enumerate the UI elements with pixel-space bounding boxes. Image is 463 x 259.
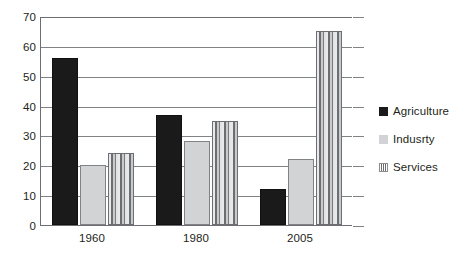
x-axis: 196019802005 — [40, 232, 352, 252]
y-tick-mark — [353, 77, 364, 78]
legend-label: Indusrty — [393, 133, 435, 145]
y-tick-mark — [353, 107, 364, 108]
y-tick-label: 10 — [2, 191, 36, 202]
y-tick-label: 40 — [2, 101, 36, 112]
bar-services-1960 — [108, 153, 134, 225]
legend-swatch-services-icon — [379, 163, 388, 172]
bar-group-2005 — [260, 17, 342, 225]
legend-item-services[interactable]: Services — [379, 157, 463, 177]
y-tick-mark — [353, 17, 364, 18]
y-tick-mark — [353, 166, 364, 167]
y-axis: 010203040506070 — [0, 0, 36, 259]
legend-label: Agriculture — [393, 105, 449, 117]
bar-chart: 010203040506070 196019802005 Agriculture… — [0, 0, 463, 259]
y-tick-label: 50 — [2, 71, 36, 82]
bar-agriculture-2005 — [260, 189, 286, 225]
y-tick-mark — [353, 47, 364, 48]
legend-item-agriculture[interactable]: Agriculture — [379, 101, 463, 121]
bar-agriculture-1980 — [156, 115, 182, 225]
y-tick-label: 60 — [2, 41, 36, 52]
y-tick-label: 0 — [2, 221, 36, 232]
x-tick-label: 1960 — [79, 232, 105, 244]
bar-group-1980 — [156, 17, 238, 225]
legend-item-industry[interactable]: Indusrty — [379, 129, 463, 149]
bar-agriculture-1960 — [52, 58, 78, 225]
x-tick-label: 1980 — [183, 232, 209, 244]
chart-legend: AgricultureIndusrtyServices — [379, 101, 463, 185]
bar-industry-1980 — [184, 141, 210, 225]
x-tick-label: 2005 — [287, 232, 313, 244]
y-tick-mark — [353, 136, 364, 137]
y-tick-mark — [353, 226, 364, 227]
legend-swatch-industry-icon — [379, 135, 388, 144]
y-tick-label: 20 — [2, 161, 36, 172]
bars-layer — [41, 17, 352, 225]
legend-swatch-agriculture-icon — [379, 107, 388, 116]
y-tick-mark — [353, 196, 364, 197]
bar-industry-2005 — [288, 159, 314, 225]
legend-label: Services — [393, 161, 438, 173]
bar-services-2005 — [316, 31, 342, 225]
bar-services-1980 — [212, 121, 238, 226]
bar-industry-1960 — [80, 165, 106, 225]
bar-group-1960 — [52, 17, 134, 225]
plot-area — [40, 17, 352, 226]
y-tick-label: 70 — [2, 12, 36, 23]
y-tick-label: 30 — [2, 131, 36, 142]
